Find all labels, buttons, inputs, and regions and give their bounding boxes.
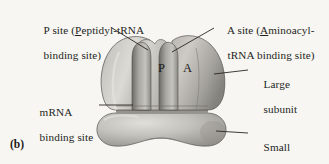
large-subunit-label: Large subunit xyxy=(252,65,297,128)
mrna-binding-site-label: mRNA binding site xyxy=(28,93,93,156)
mrna-label-line2: binding site xyxy=(40,131,94,143)
large-subunit-label-line1: Large xyxy=(264,78,290,90)
small-subunit-label-line1: Small xyxy=(264,141,291,153)
small-subunit-shape xyxy=(97,113,226,146)
a-site-groove xyxy=(159,42,178,110)
mrna-label-line1: mRNA xyxy=(40,106,73,118)
a-site-label-line1: A site (Aminoacyl- xyxy=(227,24,315,36)
a-site-label-line2: tRNA binding site) xyxy=(228,49,315,61)
ribosome-figure: P site (Peptidyl-tRNA binding site) A si… xyxy=(0,0,329,164)
a-site-letter: A xyxy=(183,61,192,76)
p-site-letter: P xyxy=(158,61,165,76)
small-subunit-label: Small subunit xyxy=(252,128,297,164)
large-subunit-label-line2: subunit xyxy=(264,103,298,115)
p-site-label-line2: binding site) xyxy=(44,49,102,61)
p-site-label: P site (Peptidyl-tRNA binding site) xyxy=(32,11,144,74)
p-site-label-line1: P site (Peptidyl-tRNA xyxy=(44,24,145,36)
panel-letter: (b) xyxy=(10,138,24,150)
